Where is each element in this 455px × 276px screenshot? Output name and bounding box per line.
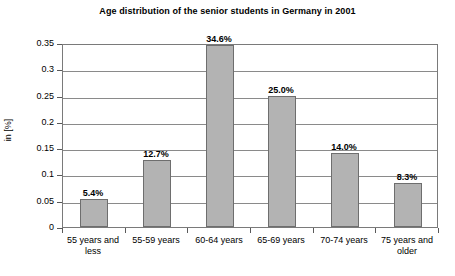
x-tick-mark: [313, 228, 314, 233]
x-tick-label-line: older: [371, 246, 443, 257]
gridline: [63, 203, 437, 204]
x-tick-label: 55 years andless: [57, 235, 129, 257]
gridline: [63, 124, 437, 125]
y-tick-label: 0.15: [2, 144, 54, 153]
x-tick-mark: [62, 228, 63, 233]
y-tick-label: 0: [2, 223, 54, 232]
y-tick-label: 0.35: [2, 39, 54, 48]
gridline: [63, 98, 437, 99]
y-tick-label: 0.25: [2, 92, 54, 101]
x-tick-mark: [375, 228, 376, 233]
gridline: [63, 71, 437, 72]
x-tick-label: 55-59 years: [120, 235, 192, 246]
bar: [331, 153, 359, 227]
y-tick-label: 0.3: [2, 65, 54, 74]
bar-value-label: 5.4%: [63, 188, 123, 198]
gridline: [63, 150, 437, 151]
bar: [80, 199, 108, 227]
y-tick-label: 0.05: [2, 197, 54, 206]
bar-value-label: 25.0%: [251, 85, 311, 95]
bar-value-label: 14.0%: [314, 142, 374, 152]
y-tick-label: 0.1: [2, 170, 54, 179]
x-tick-label-line: 70-74 years: [308, 235, 380, 246]
x-tick-label-line: 55 years and: [57, 235, 129, 246]
x-tick-mark: [125, 228, 126, 233]
y-tick-label: 0.2: [2, 118, 54, 127]
footer-note: [0, 268, 455, 276]
chart-title: Age distribution of the senior students …: [0, 6, 455, 16]
x-tick-mark: [250, 228, 251, 233]
x-tick-label: 70-74 years: [308, 235, 380, 246]
bar: [206, 45, 234, 227]
bar-value-label: 12.7%: [126, 149, 186, 159]
bar: [268, 96, 296, 227]
plot-area: [62, 44, 438, 228]
x-tick-label-line: 55-59 years: [120, 235, 192, 246]
x-tick-label: 65-69 years: [245, 235, 317, 246]
bar-value-label: 8.3%: [377, 172, 437, 182]
bar: [394, 183, 422, 227]
x-tick-label-line: 65-69 years: [245, 235, 317, 246]
x-tick-mark: [187, 228, 188, 233]
x-tick-label: 75 years andolder: [371, 235, 443, 257]
x-tick-label-line: less: [57, 246, 129, 257]
x-tick-mark: [438, 228, 439, 233]
bar: [143, 160, 171, 227]
bar-value-label: 34.6%: [189, 34, 249, 44]
x-tick-label-line: 75 years and: [371, 235, 443, 246]
